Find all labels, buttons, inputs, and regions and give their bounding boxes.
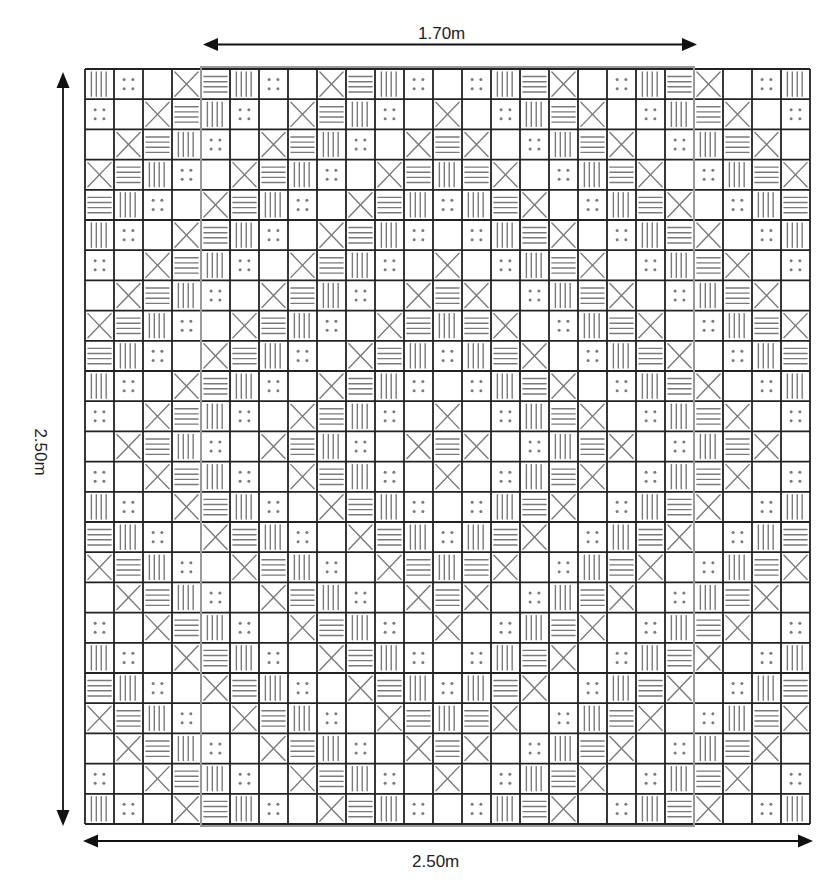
horizontal-lines-icon (378, 530, 401, 545)
horizontal-lines-icon (320, 409, 343, 424)
vertical-lines-icon (91, 646, 106, 670)
horizontal-lines-icon (755, 560, 778, 575)
horizontal-lines-icon (175, 620, 198, 635)
horizontal-lines-icon (668, 801, 691, 816)
vertical-lines-icon (642, 223, 657, 247)
x-cross-icon (436, 253, 459, 277)
horizontal-lines-icon (697, 107, 720, 122)
vertical-lines-icon (323, 434, 338, 458)
height-dimension-label: 2.50m (30, 428, 50, 475)
vertical-lines-icon (700, 585, 715, 609)
vertical-lines-icon (91, 495, 106, 519)
x-cross-icon (581, 465, 604, 489)
vertical-lines-icon (120, 344, 135, 368)
x-cross-icon (436, 767, 459, 791)
vertical-lines-icon (91, 797, 106, 821)
x-cross-icon (697, 646, 720, 670)
four-dots-icon (674, 742, 686, 754)
x-cross-icon (755, 736, 778, 760)
four-dots-icon (297, 682, 309, 694)
x-cross-icon (697, 374, 720, 398)
horizontal-lines-icon (233, 197, 256, 212)
four-dots-icon (703, 561, 715, 573)
four-dots-icon (326, 169, 338, 181)
horizontal-lines-icon (146, 439, 169, 454)
vertical-lines-icon (120, 193, 135, 217)
four-dots-icon (268, 380, 280, 392)
horizontal-lines-icon (465, 560, 488, 575)
four-dots-icon (471, 229, 483, 241)
vertical-lines-icon (642, 797, 657, 821)
horizontal-lines-icon (407, 560, 430, 575)
vertical-lines-icon (294, 706, 309, 730)
horizontal-lines-icon (204, 77, 227, 92)
horizontal-lines-icon (291, 741, 314, 756)
horizontal-lines-icon (291, 288, 314, 303)
four-dots-icon (94, 410, 106, 422)
four-dots-icon (210, 289, 222, 301)
x-cross-icon (784, 706, 807, 730)
x-cross-icon (378, 314, 401, 338)
x-cross-icon (378, 555, 401, 579)
horizontal-lines-icon (233, 681, 256, 696)
vertical-lines-icon (700, 283, 715, 307)
horizontal-lines-icon (581, 137, 604, 152)
horizontal-lines-icon (146, 137, 169, 152)
arrowhead-right-icon (682, 38, 697, 51)
x-cross-icon (465, 283, 488, 307)
horizontal-lines-icon (175, 469, 198, 484)
horizontal-lines-icon (668, 650, 691, 665)
horizontal-lines-icon (552, 469, 575, 484)
arrowhead-left-icon (83, 835, 98, 848)
vertical-lines-icon (294, 163, 309, 187)
horizontal-lines-icon (320, 469, 343, 484)
horizontal-lines-icon (349, 801, 372, 816)
horizontal-lines-icon (697, 409, 720, 424)
horizontal-lines-icon (436, 439, 459, 454)
vertical-lines-icon (758, 676, 773, 700)
horizontal-lines-icon (697, 771, 720, 786)
four-dots-icon (616, 78, 628, 90)
horizontal-lines-icon (726, 590, 749, 605)
vertical-lines-icon (642, 374, 657, 398)
four-dots-icon (790, 259, 802, 271)
horizontal-lines-icon (523, 650, 546, 665)
vertical-lines-icon (352, 404, 367, 428)
vertical-lines-icon (207, 404, 222, 428)
four-dots-icon (529, 289, 541, 301)
horizontal-lines-icon (88, 197, 111, 212)
four-dots-icon (413, 803, 425, 815)
vertical-lines-icon (468, 193, 483, 217)
x-cross-icon (175, 495, 198, 519)
vertical-lines-icon (294, 314, 309, 338)
vertical-lines-icon (352, 767, 367, 791)
vertical-lines-icon (410, 193, 425, 217)
horizontal-lines-icon (668, 77, 691, 92)
x-cross-icon (407, 585, 430, 609)
vertical-lines-icon (497, 223, 512, 247)
horizontal-lines-icon (610, 318, 633, 333)
x-cross-icon (262, 736, 285, 760)
four-dots-icon (616, 652, 628, 664)
four-dots-icon (790, 410, 802, 422)
four-dots-icon (616, 229, 628, 241)
horizontal-lines-icon (291, 439, 314, 454)
four-dots-icon (210, 138, 222, 150)
vertical-lines-icon (787, 646, 802, 670)
horizontal-lines-icon (262, 318, 285, 333)
x-cross-icon (262, 585, 285, 609)
x-cross-icon (610, 736, 633, 760)
four-dots-icon (384, 410, 396, 422)
four-dots-icon (674, 289, 686, 301)
vertical-lines-icon (236, 374, 251, 398)
horizontal-lines-icon (697, 469, 720, 484)
vertical-lines-icon (700, 434, 715, 458)
vertical-lines-icon (497, 797, 512, 821)
vertical-lines-icon (91, 72, 106, 96)
arrowhead-down-icon (57, 810, 70, 826)
horizontal-lines-icon (436, 288, 459, 303)
horizontal-lines-icon (726, 137, 749, 152)
x-cross-icon (581, 616, 604, 640)
horizontal-lines-icon (668, 228, 691, 243)
vertical-lines-icon (207, 253, 222, 277)
